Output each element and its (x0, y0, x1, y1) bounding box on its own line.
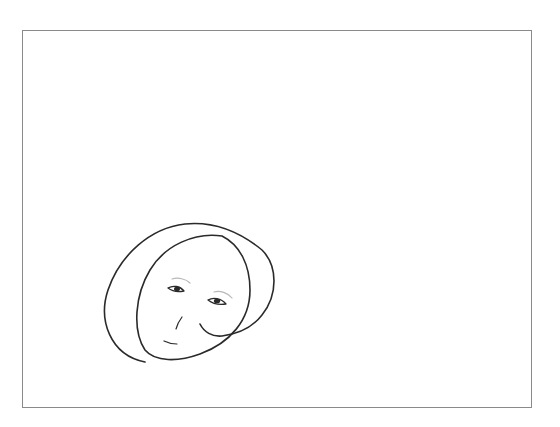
hair-outline (105, 224, 274, 362)
nose (176, 317, 182, 329)
right-pupil (214, 299, 220, 304)
mouth (164, 341, 177, 344)
left-pupil (174, 287, 180, 291)
face-sketch (0, 0, 560, 427)
left-eyebrow (172, 278, 190, 283)
face-outline (137, 235, 250, 359)
right-eyebrow (214, 291, 232, 298)
